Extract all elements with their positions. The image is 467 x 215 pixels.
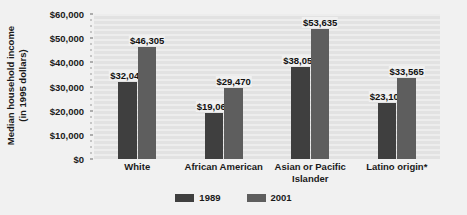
y-axis-minor-tick-mark (90, 128, 92, 129)
y-axis-tick-label: $50,000 (50, 33, 84, 44)
y-axis-minor-tick-mark (90, 122, 92, 123)
bar-2001-asian-or-pacific-islander[interactable]: $53,635 (311, 29, 329, 159)
y-axis-minor-tick-mark (90, 98, 92, 99)
bar-2001-latino-origin[interactable]: $33,565 (397, 78, 415, 159)
y-axis-minor-tick-mark (90, 140, 92, 141)
bar-group: $32,049$46,305 (94, 14, 181, 159)
x-axis-label-latino-origin: Latino origin* (354, 161, 441, 184)
bar-pair: $38,053$53,635 (291, 14, 329, 159)
y-axis-minor-tick-mark (90, 146, 92, 147)
bar-2001-african-american[interactable]: $29,470 (224, 88, 242, 159)
y-axis-minor-tick-mark (90, 92, 92, 93)
y-axis-tick-mark (90, 134, 93, 135)
y-axis-title: Median household income (in 1995 dollars… (0, 0, 34, 170)
plot-area: $32,049$46,305$19,060$29,470$38,053$53,6… (94, 14, 440, 159)
y-axis-tick-label: $0 (73, 154, 84, 165)
y-axis-minor-tick-mark (90, 20, 92, 21)
bar-group: $19,060$29,470 (181, 14, 268, 159)
bars-layer: $32,049$46,305$19,060$29,470$38,053$53,6… (94, 14, 440, 159)
y-axis-tick-mark (90, 62, 93, 63)
y-axis-minor-tick-mark (90, 104, 92, 105)
y-axis-tick-label: $10,000 (50, 129, 84, 140)
y-axis-tick-mark (90, 159, 93, 160)
bar-pair: $32,049$46,305 (118, 14, 156, 159)
bar-1989-asian-or-pacific-islander[interactable]: $38,053 (291, 67, 309, 159)
y-axis-minor-tick-mark (90, 56, 92, 57)
y-axis-minor-tick-mark (90, 26, 92, 27)
legend-label: 2001 (271, 192, 292, 203)
y-axis-title-line-1: Median household income (6, 25, 17, 144)
chart-legend: 19892001 (0, 192, 467, 203)
y-axis-tick-label: $20,000 (50, 105, 84, 116)
bar-1989-african-american[interactable]: $19,060 (205, 113, 223, 159)
y-axis-title-line-2: (in 1995 dollars) (17, 49, 28, 121)
legend-label: 1989 (199, 192, 220, 203)
y-axis-tick-label: $30,000 (50, 81, 84, 92)
y-axis-tick-labels: $0$10,000$20,000$30,000$40,000$50,000$60… (30, 9, 88, 163)
y-axis-minor-tick-mark (90, 44, 92, 45)
x-axis-label-white: White (94, 161, 181, 184)
y-axis-minor-tick-mark (90, 152, 92, 153)
legend-item-2001[interactable]: 2001 (247, 192, 292, 203)
y-axis-minor-tick-mark (90, 80, 92, 81)
bar-value-label: $46,305 (129, 35, 165, 46)
legend-swatch-icon (175, 194, 194, 202)
bar-1989-latino-origin[interactable]: $23,105 (378, 103, 396, 159)
x-axis-label-asian-or-pacific-islander: Asian or PacificIslander (267, 161, 354, 184)
y-axis-tick-mark (90, 14, 93, 15)
y-axis-minor-tick-mark (90, 74, 92, 75)
x-axis-label-african-american: African American (181, 161, 268, 184)
bar-1989-white[interactable]: $32,049 (118, 82, 136, 159)
y-axis-tick-label: $60,000 (50, 9, 84, 20)
bar-2001-white[interactable]: $46,305 (138, 47, 156, 159)
bar-value-label: $53,635 (302, 17, 338, 28)
bar-chart-card: Median household income (in 1995 dollars… (0, 0, 467, 215)
y-axis-tick-mark (90, 38, 93, 39)
y-axis-minor-tick-mark (90, 50, 92, 51)
y-axis-minor-tick-mark (90, 32, 92, 33)
legend-swatch-icon (247, 194, 266, 202)
y-axis-minor-tick-mark (90, 68, 92, 69)
bar-group: $23,105$33,565 (354, 14, 441, 159)
x-axis-labels: WhiteAfrican AmericanAsian or PacificIsl… (94, 161, 440, 184)
bar-pair: $23,105$33,565 (378, 14, 416, 159)
legend-item-1989[interactable]: 1989 (175, 192, 220, 203)
bar-value-label: $33,565 (388, 66, 424, 77)
bar-value-label: $29,470 (215, 76, 251, 87)
y-axis-tick-mark (90, 110, 93, 111)
y-axis-tick-label: $40,000 (50, 57, 84, 68)
bar-group: $38,053$53,635 (267, 14, 354, 159)
bar-pair: $19,060$29,470 (205, 14, 243, 159)
y-axis-minor-tick-mark (90, 116, 92, 117)
y-axis-tick-mark (90, 86, 93, 87)
